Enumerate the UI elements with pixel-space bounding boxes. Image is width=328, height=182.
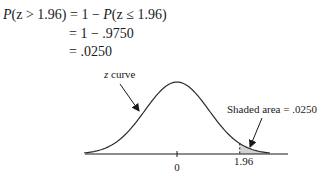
curve-label-text: curve	[108, 68, 135, 80]
normal-curve-diagram: 0 1.96 z curve Shaded area = .0250	[0, 0, 328, 182]
shaded-area-arrow	[250, 118, 262, 147]
tick-label-zero: 0	[174, 161, 180, 173]
shaded-area-label: Shaded area = .0250	[227, 103, 317, 115]
curve-label: z curve	[103, 68, 136, 80]
tick-label-critical: 1.96	[234, 155, 254, 167]
z-curve	[84, 82, 270, 153]
curve-label-arrow	[120, 84, 139, 111]
